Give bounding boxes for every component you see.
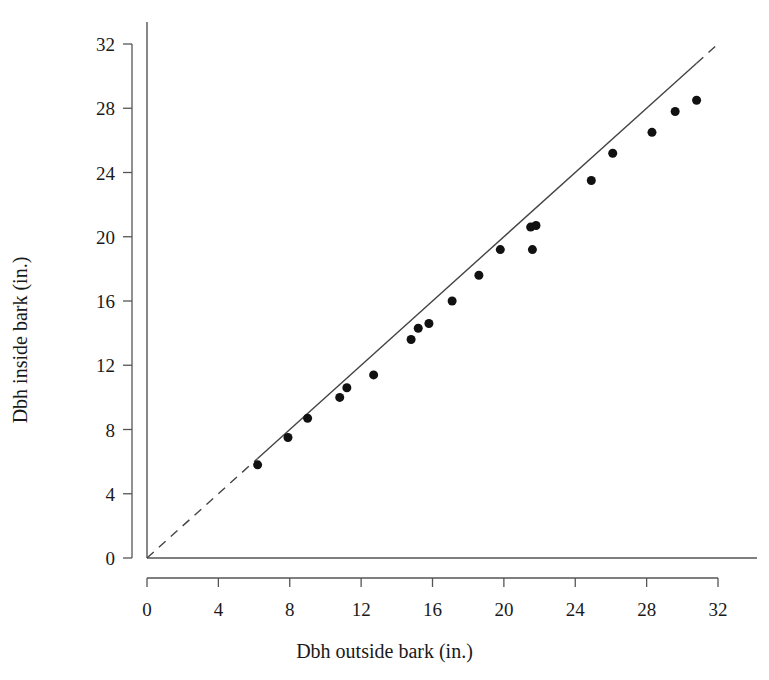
axis-lines [147,22,757,558]
y-tick-label: 24 [60,163,115,182]
data-point [335,393,344,402]
reference-line-dashed [697,44,718,63]
data-point [303,414,312,423]
x-tick-label: 12 [352,600,371,619]
y-tick-label: 12 [60,356,115,375]
y-tick-label: 4 [60,484,115,503]
data-point [528,245,537,254]
x-tick-label: 4 [214,600,224,619]
scatter-plot-figure: 048121620242832 048121620242832 Dbh insi… [0,0,769,680]
x-tick-label: 0 [142,600,152,619]
y-tick-label: 32 [60,35,115,54]
x-tick-label: 32 [709,600,728,619]
data-point [647,128,656,137]
data-point [369,370,378,379]
x-tick-label: 16 [423,600,442,619]
reference-line-dashed [147,458,258,558]
plot-canvas [0,0,769,680]
data-point [253,460,262,469]
data-point [424,319,433,328]
data-point [474,271,483,280]
data-point [283,433,292,442]
data-point [587,176,596,185]
y-tick-label: 20 [60,227,115,246]
data-point [671,107,680,116]
x-axis-title: Dbh outside bark (in.) [0,640,769,663]
data-point [414,324,423,333]
reference-line [147,44,718,558]
reference-line-solid [258,63,697,458]
data-point-group [253,96,701,470]
x-tick-label: 20 [494,600,513,619]
data-point [448,297,457,306]
data-point [496,245,505,254]
x-tick-label: 28 [637,600,656,619]
y-tick-label: 16 [60,292,115,311]
data-point [692,96,701,105]
data-point [608,149,617,158]
x-tick-label: 24 [566,600,585,619]
y-tick-label: 28 [60,99,115,118]
x-tick-label: 8 [285,600,295,619]
y-tick-label: 0 [60,549,115,568]
y-tick-label: 8 [60,420,115,439]
y-axis-title: Dbh inside bark (in.) [0,0,40,680]
data-point [407,335,416,344]
tick-bars [123,44,718,587]
data-point [342,383,351,392]
data-point [531,221,540,230]
